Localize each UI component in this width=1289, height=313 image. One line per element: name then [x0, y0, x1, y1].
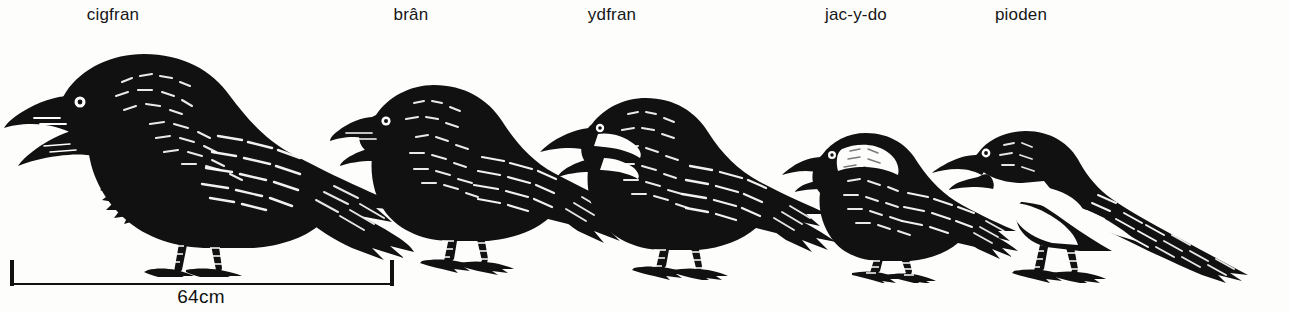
- label-ydfran: ydfran: [588, 5, 636, 25]
- scale-bar-caption: 64cm: [177, 286, 225, 308]
- bird-illustration-magpie: [930, 125, 1262, 283]
- label-bran: brân: [394, 5, 429, 25]
- label-cigfran: cigfran: [87, 5, 139, 25]
- label-pioden: pioden: [995, 5, 1047, 25]
- label-jac-y-do: jac-y-do: [825, 5, 887, 25]
- bird-size-comparison-plate: cigfran brân ydfran jac-y-do pioden: [0, 0, 1289, 313]
